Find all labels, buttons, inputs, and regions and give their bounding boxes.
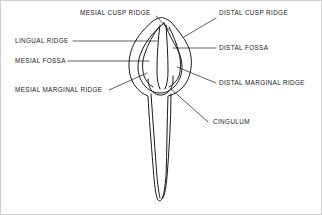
label-cingulum: CINGULUM [213,119,250,125]
cingulum-outline [148,76,173,95]
tooth-outer-outline [129,18,191,201]
lingual-ridge-line-2 [165,25,168,89]
label-distal-marginal-ridge: DISTAL MARGINAL RIDGE [219,80,305,86]
leader-cingulum [171,89,208,122]
label-mesial-cusp-ridge: MESIAL CUSP RIDGE [80,10,151,16]
label-distal-fossa: DISTAL FOSSA [219,45,268,51]
leader-distal-marginal-ridge [177,67,216,83]
label-distal-cusp-ridge: DISTAL CUSP RIDGE [219,10,288,16]
label-lingual-ridge: LINGUAL RIDGE [15,38,69,44]
leader-distal-cusp-ridge [184,18,216,37]
tooth-diagram-svg [1,1,322,215]
label-mesial-fossa: MESIAL FOSSA [15,58,66,64]
label-mesial-marginal-ridge: MESIAL MARGINAL RIDGE [15,87,103,93]
diagram-page: MESIAL CUSP RIDGE DISTAL CUSP RIDGE LING… [0,0,322,215]
lingual-ridge-line [157,25,160,89]
root-left-contour [151,94,160,198]
